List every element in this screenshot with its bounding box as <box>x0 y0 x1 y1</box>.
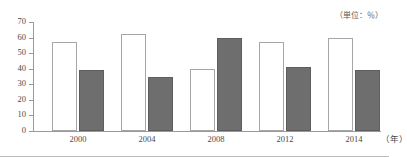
y-tick-label-50: 50 <box>18 47 27 58</box>
y-tick-10: 10 <box>29 115 33 116</box>
bar-light[interactable] <box>190 69 215 131</box>
bottom-divider <box>0 156 389 157</box>
bar-dark[interactable] <box>286 67 311 131</box>
y-tick-label-60: 60 <box>18 32 27 43</box>
bar-group <box>328 22 380 131</box>
y-tick-20: 20 <box>29 100 33 101</box>
y-tick-label-10: 10 <box>18 109 27 120</box>
bar-light[interactable] <box>328 38 353 131</box>
x-tick-label-2014: 2014 <box>328 134 380 145</box>
bar-light[interactable] <box>121 34 146 131</box>
unit-annotation: （単位：％） <box>335 11 383 21</box>
bar-group <box>190 22 242 131</box>
y-tick-0: 0 <box>29 131 33 132</box>
y-tick-label-40: 40 <box>18 63 27 74</box>
bar-dark[interactable] <box>355 70 380 131</box>
bar-dark[interactable] <box>148 77 173 132</box>
x-axis-unit-label: （年） <box>381 134 407 145</box>
bar-group <box>52 22 104 131</box>
chart-title <box>0 0 389 2</box>
y-tick-label-20: 20 <box>18 94 27 105</box>
y-tick-70: 70 <box>29 22 33 23</box>
y-tick-50: 50 <box>29 53 33 54</box>
bar-light[interactable] <box>259 42 284 131</box>
bar-light[interactable] <box>52 42 77 131</box>
x-axis-line <box>33 131 381 132</box>
y-tick-label-0: 0 <box>22 125 26 136</box>
y-tick-label-70: 70 <box>18 16 27 27</box>
y-tick-label-30: 30 <box>18 78 27 89</box>
y-tick-60: 60 <box>29 38 33 39</box>
bar-group <box>121 22 173 131</box>
x-tick-label-2000: 2000 <box>52 134 104 145</box>
y-tick-30: 30 <box>29 84 33 85</box>
bar-dark[interactable] <box>79 70 104 131</box>
y-tick-40: 40 <box>29 69 33 70</box>
plot-area: 70 60 50 40 30 20 10 0 <box>33 22 381 131</box>
x-tick-label-2008: 2008 <box>190 134 242 145</box>
y-axis-line <box>33 22 34 131</box>
bar-dark[interactable] <box>217 38 242 131</box>
bar-group <box>259 22 311 131</box>
x-tick-label-2004: 2004 <box>121 134 173 145</box>
x-tick-label-2012: 2012 <box>259 134 311 145</box>
